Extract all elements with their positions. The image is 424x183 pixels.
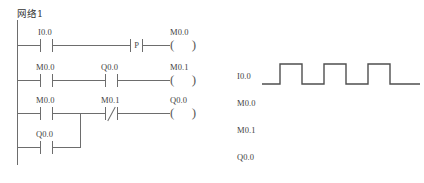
rung-1-operand-i00: I0.0	[38, 27, 52, 37]
rung-3-contact-m00	[40, 107, 53, 120]
ladder-diagram: 网络1 I0.0 P () M0.0	[0, 0, 225, 183]
timing-label-m01: M0.1	[237, 125, 256, 135]
network-title: 网络1	[17, 8, 43, 19]
rung-3-operand-m00: M0.0	[36, 95, 55, 105]
rung-2-wire-c	[118, 80, 170, 81]
branch-wire-a	[18, 147, 40, 148]
rung-2-wire-b	[53, 80, 105, 81]
branch-vertical-connector	[80, 113, 81, 147]
timing-label-m00: M0.0	[237, 98, 256, 108]
rung-3-wire-c	[118, 113, 170, 114]
rung-2-operand-m01: M0.1	[170, 62, 189, 72]
rung-3-operand-q00: Q0.0	[170, 95, 187, 105]
rung-2-contact-q00	[105, 74, 118, 87]
rung-1-wire-c	[143, 45, 170, 46]
rung-1-contact-positive-edge: P	[130, 39, 143, 52]
branch-contact-q00	[40, 141, 53, 154]
rung-1-operand-m00: M0.0	[170, 27, 189, 37]
rung-3-wire-b	[53, 113, 105, 114]
normally-closed-slash	[107, 107, 115, 122]
rung-1-wire-b	[53, 45, 130, 46]
rung-2-coil-m01: ()	[170, 73, 196, 87]
rung-3-wire-a	[18, 113, 40, 114]
rung-3-contact-m01-nc	[105, 107, 118, 120]
branch-wire-b	[53, 147, 81, 148]
left-power-rail	[17, 20, 18, 165]
timing-label-q00: Q0.0	[237, 152, 254, 162]
rung-2-operand-m00: M0.0	[36, 62, 55, 72]
rung-2-contact-m00	[40, 74, 53, 87]
timing-label-i00: I0.0	[237, 71, 251, 81]
ladder-logic-figure: 网络1 I0.0 P () M0.0	[0, 0, 424, 183]
rung-1-contact-i00	[40, 39, 53, 52]
rung-1-wire-a	[18, 45, 40, 46]
rung-2-wire-a	[18, 80, 40, 81]
branch-operand-q00: Q0.0	[36, 129, 53, 139]
rung-1-coil-m00: ()	[170, 38, 196, 52]
rung-2-operand-q00: Q0.0	[101, 62, 118, 72]
rung-3-coil-q00: ()	[170, 106, 196, 120]
timing-diagram: I0.0 M0.0 M0.1 Q0.0	[228, 0, 424, 183]
rung-3-operand-m01: M0.1	[101, 95, 120, 105]
positive-edge-glyph: P	[130, 38, 143, 52]
waveform-i00	[262, 62, 424, 90]
